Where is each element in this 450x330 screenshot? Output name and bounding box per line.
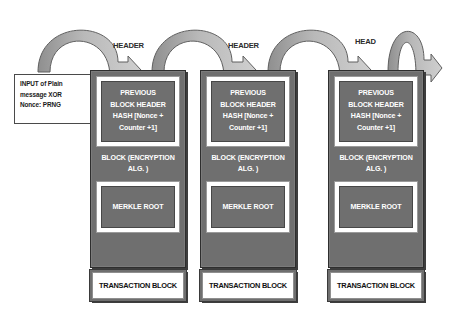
block-3-hash-line-2: BLOCK HEADER bbox=[342, 100, 410, 112]
block-2-transaction-block[interactable]: TRANSACTION BLOCK bbox=[202, 272, 294, 299]
block-1-body: PREVIOUS BLOCK HEADER HASH [Nonce + Coun… bbox=[90, 70, 186, 268]
block-3-hash-cell: PREVIOUS BLOCK HEADER HASH [Nonce + Coun… bbox=[339, 81, 413, 142]
block-1[interactable]: PREVIOUS BLOCK HEADER HASH [Nonce + Coun… bbox=[90, 70, 186, 268]
block-1-hash-matte: PREVIOUS BLOCK HEADER HASH [Nonce + Coun… bbox=[96, 76, 180, 147]
block-1-hash-line-2: BLOCK HEADER bbox=[104, 100, 172, 112]
block-1-encryption-band: BLOCK (ENCRYPTION ALG. ) bbox=[96, 147, 180, 181]
block-2-band-line-2: ALG. ) bbox=[208, 164, 288, 175]
block-3-hash-line-4: Counter +1] bbox=[342, 123, 410, 135]
input-note: INPUT of Plain message XOR Nonce: PRNG bbox=[14, 74, 92, 124]
block-1-band-line-1: BLOCK (ENCRYPTION bbox=[98, 153, 178, 164]
block-2[interactable]: PREVIOUS BLOCK HEADER HASH [Nonce + Coun… bbox=[200, 70, 296, 268]
block-1-band-line-2: ALG. ) bbox=[98, 164, 178, 175]
block-2-hash-line-2: BLOCK HEADER bbox=[214, 100, 282, 112]
block-2-transaction-label: TRANSACTION BLOCK bbox=[209, 281, 287, 290]
block-3-band-line-1: BLOCK (ENCRYPTION bbox=[336, 153, 416, 164]
block-1-merkle-cell: MERKLE ROOT bbox=[101, 186, 175, 228]
block-2-hash-line-1: PREVIOUS bbox=[214, 88, 282, 100]
block-1-hash-line-4: Counter +1] bbox=[104, 123, 172, 135]
diagram-canvas: INPUT of Plain message XOR Nonce: PRNG H… bbox=[0, 0, 450, 330]
block-2-band-line-1: BLOCK (ENCRYPTION bbox=[208, 153, 288, 164]
input-note-line-3: Nonce: PRNG bbox=[20, 100, 87, 111]
block-2-hash-line-3: HASH [Nonce + bbox=[214, 111, 282, 123]
block-2-hash-matte: PREVIOUS BLOCK HEADER HASH [Nonce + Coun… bbox=[206, 76, 290, 147]
block-2-merkle-matte: MERKLE ROOT bbox=[206, 181, 290, 233]
block-3-transaction-label: TRANSACTION BLOCK bbox=[337, 281, 415, 290]
block-2-body: PREVIOUS BLOCK HEADER HASH [Nonce + Coun… bbox=[200, 70, 296, 268]
block-3-hash-line-3: HASH [Nonce + bbox=[342, 111, 410, 123]
block-1-merkle-matte: MERKLE ROOT bbox=[96, 181, 180, 233]
input-note-line-2: message XOR bbox=[20, 90, 87, 101]
block-3[interactable]: PREVIOUS BLOCK HEADER HASH [Nonce + Coun… bbox=[328, 70, 424, 268]
header-label-3: HEAD bbox=[355, 37, 376, 46]
block-3-band-line-2: ALG. ) bbox=[336, 164, 416, 175]
block-2-hash-line-4: Counter +1] bbox=[214, 123, 282, 135]
block-3-transaction-block[interactable]: TRANSACTION BLOCK bbox=[330, 272, 422, 299]
header-label-1: HEADER bbox=[113, 41, 144, 50]
block-1-hash-line-1: PREVIOUS bbox=[104, 88, 172, 100]
block-3-hash-line-1: PREVIOUS bbox=[342, 88, 410, 100]
block-3-body: PREVIOUS BLOCK HEADER HASH [Nonce + Coun… bbox=[328, 70, 424, 268]
header-label-2: HEADER bbox=[228, 41, 259, 50]
block-2-encryption-band: BLOCK (ENCRYPTION ALG. ) bbox=[206, 147, 290, 181]
block-2-merkle-cell: MERKLE ROOT bbox=[211, 186, 285, 228]
block-1-transaction-block[interactable]: TRANSACTION BLOCK bbox=[92, 272, 184, 299]
block-3-merkle-matte: MERKLE ROOT bbox=[334, 181, 418, 233]
input-note-line-1: INPUT of Plain bbox=[20, 79, 87, 90]
block-3-merkle-cell: MERKLE ROOT bbox=[339, 186, 413, 228]
block-3-hash-matte: PREVIOUS BLOCK HEADER HASH [Nonce + Coun… bbox=[334, 76, 418, 147]
block-1-transaction-label: TRANSACTION BLOCK bbox=[99, 281, 177, 290]
block-2-hash-cell: PREVIOUS BLOCK HEADER HASH [Nonce + Coun… bbox=[211, 81, 285, 142]
block-1-hash-line-3: HASH [Nonce + bbox=[104, 111, 172, 123]
block-1-hash-cell: PREVIOUS BLOCK HEADER HASH [Nonce + Coun… bbox=[101, 81, 175, 142]
block-3-encryption-band: BLOCK (ENCRYPTION ALG. ) bbox=[334, 147, 418, 181]
